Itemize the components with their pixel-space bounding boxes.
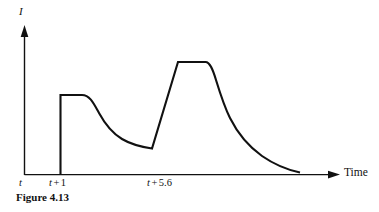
tick-operator: +: [150, 177, 159, 188]
tick-variable: t: [19, 177, 22, 188]
x-axis-arrowhead: [328, 171, 340, 179]
figure-caption: Figure 4.13: [16, 192, 69, 203]
x-axis-label: Time: [344, 167, 368, 179]
x-tick-label-t-plus-1: t+1: [49, 178, 66, 189]
tick-number: 1: [61, 177, 66, 188]
figure-4-13: I Time t t+1 t+5.6 Figure 4.13: [0, 0, 379, 212]
y-axis-label: I: [19, 6, 23, 17]
x-tick-label-t-plus-5-6: t+5.6: [147, 178, 172, 189]
y-axis: [21, 25, 29, 175]
x-tick-label-t: t: [19, 178, 22, 189]
tick-number: 5.6: [159, 177, 172, 188]
tick-operator: +: [52, 177, 61, 188]
current-waveform-path: [61, 62, 301, 175]
y-axis-arrowhead: [21, 25, 29, 37]
x-axis: [25, 171, 341, 179]
